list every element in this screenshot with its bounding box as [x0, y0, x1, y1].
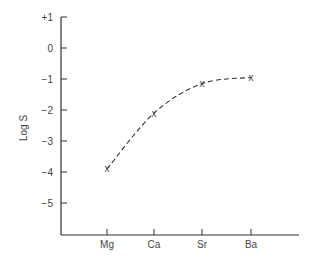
y-tick-label: −5 [42, 198, 54, 209]
y-tick-label: −1 [42, 74, 54, 85]
x-tick-label: Ba [245, 239, 258, 250]
y-tick-label: +1 [42, 12, 54, 23]
y-tick-label: 0 [47, 43, 53, 54]
data-markers: xxxx [105, 72, 254, 174]
y-tick-label: −2 [42, 105, 54, 116]
y-tick-label: −4 [42, 167, 54, 178]
x-ticks: MgCaSrBa [100, 229, 258, 250]
y-tick-label: −3 [42, 136, 54, 147]
x-marker-icon: x [200, 78, 205, 89]
axes [61, 17, 299, 235]
dashed-curve [107, 77, 251, 168]
x-tick-label: Mg [100, 239, 114, 250]
chart: +10−1−2−3−4−5 MgCaSrBa xxxx Log S [0, 0, 314, 261]
x-tick-label: Sr [197, 239, 208, 250]
x-tick-label: Ca [148, 239, 161, 250]
y-axis-title: Log S [18, 115, 29, 141]
x-marker-icon: x [249, 72, 254, 83]
y-ticks: +10−1−2−3−4−5 [42, 12, 67, 209]
x-marker-icon: x [105, 163, 110, 174]
x-marker-icon: x [152, 108, 157, 119]
